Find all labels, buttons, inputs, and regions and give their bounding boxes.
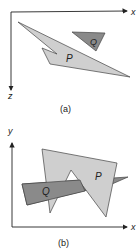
polygon-p-label-b: P	[95, 171, 102, 182]
polygon-p-a	[18, 22, 130, 77]
polygon-p-label-a: P	[66, 53, 73, 64]
x-axis-a	[11, 11, 127, 12]
polygon-q-a	[72, 32, 105, 51]
caption-a: (a)	[60, 104, 71, 114]
x-axis-label-a: x	[130, 7, 136, 17]
depth-sort-diagram: x z P Q (a) x y P Q (b)	[0, 0, 139, 248]
caption-b: (b)	[58, 238, 69, 248]
y-axis-label-b: y	[7, 126, 13, 136]
polygon-q-label-b: Q	[42, 186, 50, 197]
figure-b: x y P Q (b)	[7, 126, 136, 248]
x-axis-label-b: x	[130, 222, 136, 232]
polygon-q-label-a: Q	[90, 37, 97, 47]
figure-a: x z P Q (a)	[7, 7, 136, 114]
z-axis-label-a: z	[7, 91, 13, 101]
